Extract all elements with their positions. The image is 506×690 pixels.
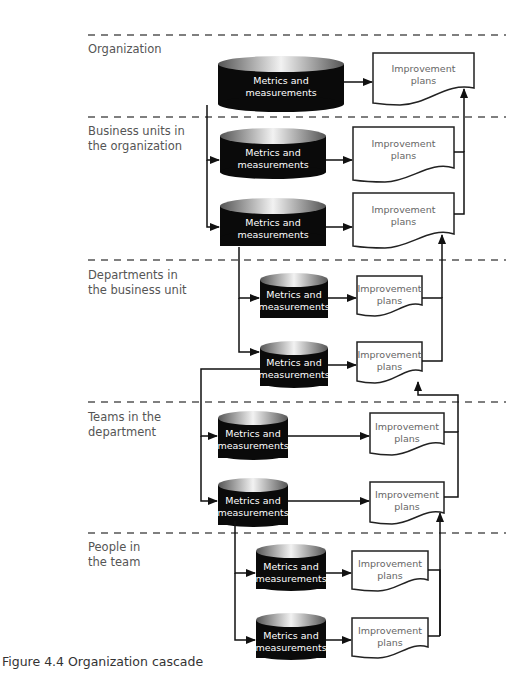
metrics-label: Metrics and measurements	[220, 147, 326, 171]
metrics-label: Metrics and measurements	[254, 630, 328, 654]
metrics-label: Metrics and measurements	[258, 289, 330, 313]
metrics-label: Metrics and measurements	[258, 357, 330, 381]
plans-label: Improvement plans	[357, 349, 422, 373]
tier-label-people: People in the team	[88, 540, 140, 570]
metrics-label: Metrics and measurements	[216, 428, 290, 452]
plans-label: Improvement plans	[370, 421, 444, 445]
plans-label: Improvement plans	[352, 558, 428, 582]
plans-label: Improvement plans	[373, 63, 474, 87]
cascade-diagram	[0, 0, 506, 690]
tier-label-teams: Teams in the department	[88, 410, 161, 440]
tier-label-business-units: Business units in the organization	[88, 124, 185, 154]
plans-label: Improvement plans	[353, 138, 454, 162]
plans-label: Improvement plans	[370, 489, 444, 513]
plans-label: Improvement plans	[357, 283, 422, 307]
plans-label: Improvement plans	[353, 204, 454, 228]
tier-label-organization: Organization	[88, 42, 162, 57]
metrics-label: Metrics and measurements	[254, 561, 328, 585]
tier-label-departments: Departments in the business unit	[88, 268, 187, 298]
figure-caption: Figure 4.4 Organization cascade	[2, 654, 203, 669]
metrics-label: Metrics and measurements	[216, 495, 290, 519]
metrics-label: Metrics and measurements	[218, 75, 344, 99]
metrics-label: Metrics and measurements	[220, 217, 326, 241]
plans-label: Improvement plans	[352, 625, 428, 649]
